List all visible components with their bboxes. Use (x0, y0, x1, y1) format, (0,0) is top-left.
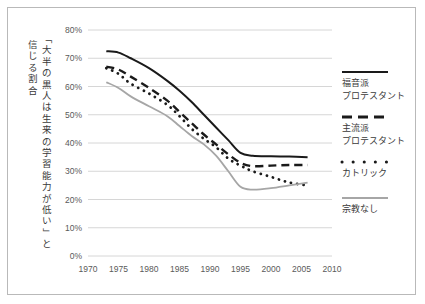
x-tick-label: 1980 (140, 264, 159, 274)
y-axis-tick-labels: 0%10%20%30%40%50%60%70%80% (65, 25, 82, 261)
y-axis-title-char: い (42, 215, 52, 226)
y-tick-label: 40% (65, 138, 82, 148)
y-axis-title-char: 生 (42, 113, 52, 124)
y-axis-title-char: 合 (28, 85, 38, 96)
y-axis-title-char: 人 (42, 90, 52, 101)
y-tick-label: 10% (65, 223, 82, 233)
y-axis-title-char: 信 (28, 39, 38, 50)
y-axis-title-char: 習 (42, 158, 52, 169)
y-tick-label: 60% (65, 82, 82, 92)
chart-figure: 0%10%20%30%40%50%60%70%80% 1970197519801… (0, 0, 425, 304)
x-tick-label: 1970 (79, 264, 98, 274)
legend-label-1: 福音派 (342, 77, 369, 88)
y-axis-title-char: じ (28, 50, 38, 61)
y-axis-title-char: る (28, 62, 38, 73)
chart-legend: 福音派プロテスタント主流派プロテスタントカトリック宗教なし (342, 72, 405, 214)
y-tick-label: 30% (65, 166, 82, 176)
gridlines (88, 30, 332, 256)
data-series-layer (106, 51, 307, 189)
legend-label-2: 主流派 (342, 122, 369, 133)
x-tick-label: 2005 (292, 264, 311, 274)
y-axis-title-char: の (42, 67, 52, 78)
y-axis-title-char: の (42, 136, 52, 147)
y-axis-title-char: 来 (42, 124, 52, 135)
x-tick-label: 1985 (170, 264, 189, 274)
y-axis-title-char: は (42, 101, 52, 112)
y-tick-label: 70% (65, 53, 82, 63)
series-line-3 (106, 68, 307, 185)
legend-label-3: カトリック (342, 168, 387, 178)
y-axis-title-char: 力 (42, 181, 52, 192)
x-tick-label: 1975 (109, 264, 128, 274)
legend-label-1-cont: プロテスタント (342, 91, 405, 101)
line-chart: 0%10%20%30%40%50%60%70%80% 1970197519801… (0, 0, 425, 304)
y-axis-title-char: と (42, 238, 52, 249)
y-tick-label: 20% (65, 195, 82, 205)
x-tick-label: 1995 (231, 264, 250, 274)
y-axis-title-char: 学 (42, 147, 52, 158)
y-axis-title: 「大半の黒人は生来の学習能力が低い」と信じる割合 (28, 34, 53, 249)
legend-label-4: 宗教なし (342, 203, 378, 214)
x-axis-tick-labels: 197019751980198519901995200020052010 (79, 264, 342, 274)
x-tick-label: 2000 (262, 264, 281, 274)
y-tick-label: 80% (65, 25, 82, 35)
y-tick-label: 50% (65, 110, 82, 120)
x-tick-label: 2010 (323, 264, 342, 274)
y-axis-title-char: 割 (28, 73, 38, 84)
y-axis-title-char: 黒 (42, 79, 52, 90)
x-tick-label: 1990 (201, 264, 220, 274)
y-axis-title-char: 大 (42, 44, 52, 55)
y-axis-title-char: 」 (42, 228, 53, 238)
y-axis-title-char: 半 (42, 56, 52, 67)
y-axis-title-char: 能 (42, 170, 52, 181)
y-tick-label: 0% (70, 251, 83, 261)
y-axis-title-char: 低 (42, 204, 52, 215)
y-axis-title-char: が (42, 193, 52, 204)
y-axis-title-char: 「 (42, 34, 53, 44)
legend-label-2-cont: プロテスタント (342, 136, 405, 146)
